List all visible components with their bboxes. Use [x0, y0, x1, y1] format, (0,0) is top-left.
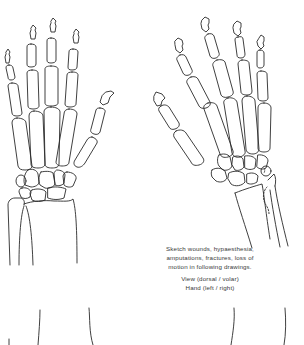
right-hand-skeleton: [154, 17, 288, 345]
hand-label: Hand (left / right): [148, 283, 272, 292]
view-label: View (dorsal / volar): [148, 274, 272, 283]
instruction-line-2: amputations, fractures, loss of: [148, 253, 272, 262]
instruction-line-1: Sketch wounds, hypaesthesia,: [148, 244, 272, 253]
assessment-sheet: Sketch wounds, hypaesthesia, amputations…: [0, 0, 304, 345]
left-hand-skeleton: [5, 18, 114, 345]
hand-skeleton-drawings: [0, 0, 304, 345]
instructions-block: Sketch wounds, hypaesthesia, amputations…: [148, 244, 272, 292]
instruction-line-3: motion in following drawings.: [148, 262, 272, 271]
